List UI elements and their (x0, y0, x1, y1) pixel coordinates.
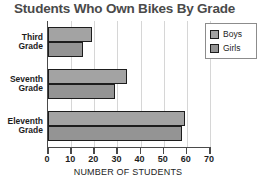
x-axis-tick (209, 147, 211, 154)
x-axis-tick-label: 70 (199, 154, 219, 164)
y-axis-label-third: ThirdGrade (0, 33, 43, 52)
x-axis-tick (93, 147, 95, 154)
y-axis-label-line: Grade (0, 84, 43, 94)
x-axis-tick (116, 147, 118, 154)
x-axis-tick-label: 30 (106, 154, 126, 164)
x-axis-tick (140, 147, 142, 154)
x-axis-title: NUMBER OF STUDENTS (47, 167, 209, 177)
bar-group (48, 63, 210, 105)
x-axis-tick-label: 20 (83, 154, 103, 164)
y-axis-label-eleventh: EleventhGrade (0, 117, 43, 136)
plot-area (47, 21, 210, 148)
x-axis-tick-label: 60 (176, 154, 196, 164)
legend-swatch-girls-icon (210, 44, 219, 53)
y-axis-label-seventh: SeventhGrade (0, 75, 43, 94)
bar-boys-third (48, 27, 92, 42)
bar-girls-eleventh (48, 126, 182, 141)
bar-boys-eleventh (48, 111, 185, 126)
x-axis-tick (186, 147, 188, 154)
legend-label-girls: Girls (223, 43, 240, 53)
legend-item-boys: Boys (210, 27, 256, 41)
chart-title: Students Who Own Bikes By Grade (14, 1, 250, 16)
legend: Boys Girls (205, 23, 257, 59)
y-axis-label-line: Grade (0, 126, 43, 136)
x-axis-tick (70, 147, 72, 154)
legend-swatch-boys-icon (210, 30, 219, 39)
legend-label-boys: Boys (223, 29, 242, 39)
bar-boys-seventh (48, 69, 127, 84)
x-axis-tick (47, 147, 49, 154)
bar-group (48, 105, 210, 147)
x-axis-tick-label: 10 (60, 154, 80, 164)
chart-screenshot: Students Who Own Bikes By Grade ThirdGra… (0, 0, 261, 183)
x-axis-tick-label: 40 (130, 154, 150, 164)
y-axis-label-line: Grade (0, 42, 43, 52)
x-axis-tick (163, 147, 165, 154)
x-axis-tick-label: 0 (37, 154, 57, 164)
x-axis-tick-label: 50 (153, 154, 173, 164)
bar-girls-third (48, 42, 83, 57)
legend-item-girls: Girls (210, 41, 256, 55)
bar-group (48, 21, 210, 63)
bar-girls-seventh (48, 84, 115, 99)
